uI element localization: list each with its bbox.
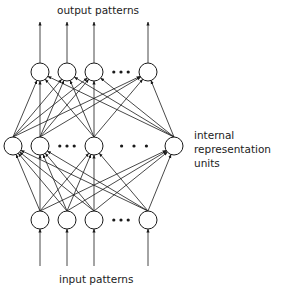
hidden-output-connection (151, 80, 174, 137)
output-unit (31, 63, 49, 81)
output-patterns-label: output patterns (57, 3, 139, 17)
output-unit (139, 63, 157, 81)
internal-label-line-3: units (194, 156, 284, 170)
internal-unit (85, 137, 103, 155)
internal-label-line-1: internal (194, 128, 284, 142)
internal-unit (4, 137, 22, 155)
input-hidden-connection (47, 151, 148, 211)
input-unit (58, 211, 76, 229)
input-unit (85, 211, 103, 229)
input-patterns-label: input patterns (59, 272, 133, 286)
input-unit (31, 211, 49, 229)
input-hidden-connection (148, 154, 171, 211)
output-ellipsis (112, 70, 130, 73)
hidden-output-connection (13, 78, 87, 137)
input-unit (139, 211, 157, 229)
internal-unit (165, 137, 183, 155)
internal-representation-label: internal representation units (194, 128, 284, 170)
hidden-output-connection (74, 77, 174, 137)
output-unit (58, 63, 76, 81)
hidden-output-connection (94, 79, 143, 137)
hidden-output-connection (40, 80, 64, 137)
hidden-output-connection (101, 78, 174, 137)
input-hidden-connection (99, 153, 148, 211)
input-hidden-connection (18, 153, 67, 211)
input-hidden-connection (16, 154, 40, 211)
internal-label-line-2: representation (194, 142, 284, 156)
output-unit (85, 63, 103, 81)
hidden-output-connection (13, 76, 140, 137)
internal-ellipsis-2 (120, 144, 148, 147)
input-ellipsis (112, 218, 130, 221)
internal-unit (31, 137, 49, 155)
input-hidden-connection (94, 152, 167, 211)
hidden-output-connection (48, 76, 174, 137)
internal-ellipsis-1 (58, 144, 76, 147)
input-hidden-connection (20, 152, 94, 211)
hidden-output-connection (13, 80, 37, 137)
